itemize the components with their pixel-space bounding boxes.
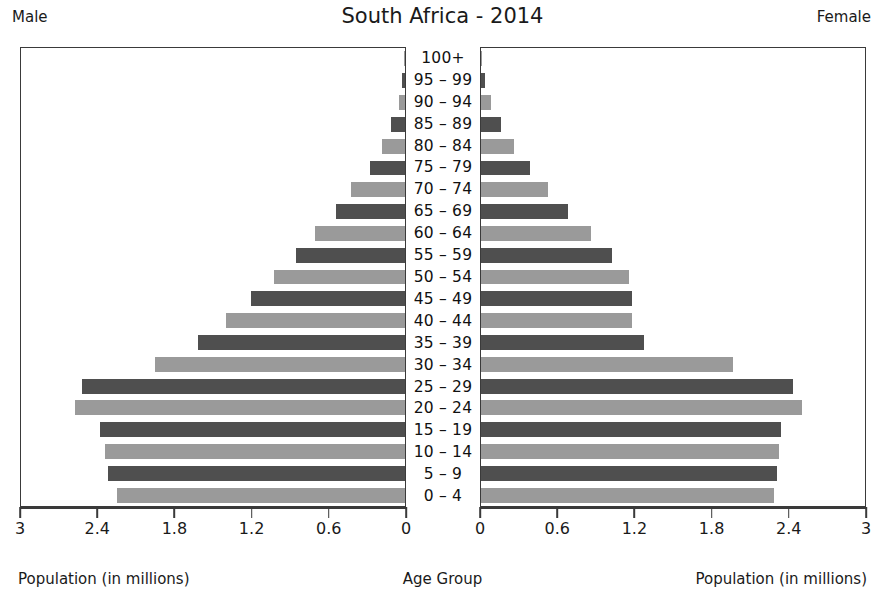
bar-row xyxy=(21,70,405,92)
bar-row xyxy=(481,157,865,179)
age-group-label: 95 – 99 xyxy=(406,69,480,91)
axis-tick xyxy=(634,507,636,518)
age-group-label: 0 – 4 xyxy=(406,485,480,507)
bar-female xyxy=(481,95,491,110)
bar-row xyxy=(481,244,865,266)
age-group-label: 50 – 54 xyxy=(406,266,480,288)
bar-row xyxy=(21,375,405,397)
bar-row xyxy=(21,462,405,484)
age-group-label: 15 – 19 xyxy=(406,419,480,441)
bar-male xyxy=(399,95,405,110)
bar-row xyxy=(21,266,405,288)
axis-tick-label: 2.4 xyxy=(84,519,109,538)
axis-tick-label: 0.6 xyxy=(316,519,341,538)
bar-row xyxy=(21,332,405,354)
bar-row xyxy=(481,179,865,201)
bar-male xyxy=(391,117,405,132)
bar-row xyxy=(21,201,405,223)
bar-female xyxy=(481,270,629,285)
age-group-label: 55 – 59 xyxy=(406,244,480,266)
bar-female xyxy=(481,291,632,306)
age-group-label: 40 – 44 xyxy=(406,310,480,332)
axis-tick xyxy=(479,507,481,518)
bar-female xyxy=(481,51,482,66)
bar-row xyxy=(21,288,405,310)
age-group-label: 65 – 69 xyxy=(406,200,480,222)
axis-tick-label: 0.6 xyxy=(544,519,569,538)
axis-tick xyxy=(711,507,713,518)
bar-row xyxy=(481,201,865,223)
female-plot-area xyxy=(480,47,866,507)
bar-row xyxy=(481,332,865,354)
age-group-label: 85 – 89 xyxy=(406,113,480,135)
bar-female xyxy=(481,248,612,263)
bar-row xyxy=(21,244,405,266)
axis-tick-label: 3 xyxy=(861,519,871,538)
axis-tick-label: 3 xyxy=(15,519,25,538)
axis-tick xyxy=(556,507,558,518)
female-axis-caption: Population (in millions) xyxy=(695,570,867,588)
bar-male xyxy=(75,400,405,415)
age-group-axis: 100+95 – 9990 – 9485 – 8980 – 8475 – 797… xyxy=(406,47,480,507)
bar-female xyxy=(481,226,591,241)
bar-female xyxy=(481,204,568,219)
axis-tick xyxy=(251,507,253,518)
bar-female xyxy=(481,117,501,132)
bar-male xyxy=(370,161,405,176)
axis-tick-label: 0 xyxy=(475,519,485,538)
age-group-label: 75 – 79 xyxy=(406,157,480,179)
age-group-label: 30 – 34 xyxy=(406,354,480,376)
bar-row xyxy=(481,441,865,463)
bar-female xyxy=(481,357,733,372)
age-group-label: 25 – 29 xyxy=(406,376,480,398)
bar-male xyxy=(274,270,405,285)
bar-female xyxy=(481,139,514,154)
axis-tick-label: 0 xyxy=(401,519,411,538)
bar-row xyxy=(21,223,405,245)
bar-row xyxy=(21,48,405,70)
bar-male xyxy=(226,313,405,328)
bar-row xyxy=(481,70,865,92)
bar-row xyxy=(481,353,865,375)
bar-female xyxy=(481,335,644,350)
bar-male xyxy=(402,73,405,88)
bar-row xyxy=(481,419,865,441)
male-bar-rows xyxy=(21,48,405,506)
bar-female xyxy=(481,73,485,88)
bar-row xyxy=(481,223,865,245)
bar-female xyxy=(481,379,793,394)
axis-tick-label: 1.2 xyxy=(239,519,264,538)
female-bar-rows xyxy=(481,48,865,506)
bar-row xyxy=(21,397,405,419)
bar-row xyxy=(21,419,405,441)
bar-male xyxy=(404,51,405,66)
bar-male xyxy=(117,488,405,503)
bar-female xyxy=(481,161,530,176)
male-plot-area xyxy=(20,47,406,507)
bar-row xyxy=(481,135,865,157)
bar-row xyxy=(481,397,865,419)
bar-row xyxy=(21,113,405,135)
bar-male xyxy=(315,226,405,241)
male-axis-line xyxy=(20,507,406,509)
axis-tick-label: 1.2 xyxy=(622,519,647,538)
female-axis-line xyxy=(480,507,866,509)
age-group-label: 10 – 14 xyxy=(406,441,480,463)
bar-male xyxy=(105,444,405,459)
bar-row xyxy=(481,375,865,397)
bar-female xyxy=(481,488,774,503)
bar-male xyxy=(108,466,405,481)
bar-female xyxy=(481,400,802,415)
bar-female xyxy=(481,313,632,328)
bar-row xyxy=(21,135,405,157)
bar-row xyxy=(481,310,865,332)
axis-tick xyxy=(405,507,407,518)
bar-row xyxy=(481,462,865,484)
bar-row xyxy=(481,484,865,506)
bar-female xyxy=(481,422,781,437)
bar-row xyxy=(21,92,405,114)
axis-tick xyxy=(96,507,98,518)
age-group-label: 100+ xyxy=(406,47,480,69)
age-group-label: 45 – 49 xyxy=(406,288,480,310)
bar-male xyxy=(351,182,405,197)
